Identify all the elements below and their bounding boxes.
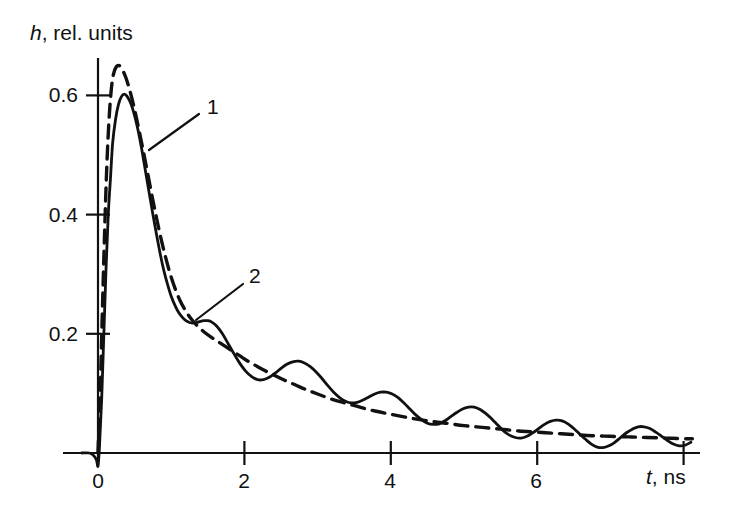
chart-figure: h, rel. units t, ns 0.6 0.4 0.2 0 2 4 6 …	[0, 0, 735, 523]
callout-leader-lines	[149, 114, 243, 320]
curve-1-callout-leader	[149, 114, 199, 150]
axes	[63, 58, 700, 465]
curve-2-callout-leader	[196, 284, 243, 320]
data-series	[82, 65, 692, 466]
plot-area	[0, 0, 735, 523]
